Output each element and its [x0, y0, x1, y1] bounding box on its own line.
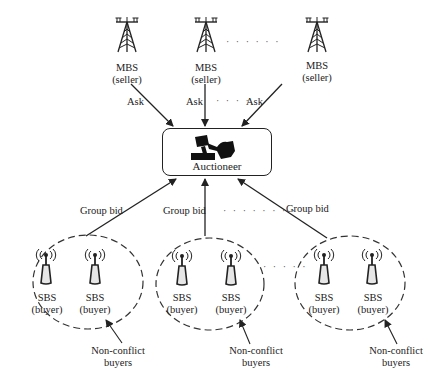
group-bid-label: Group bid — [163, 205, 206, 217]
seller-label: MBS (seller) — [186, 62, 226, 86]
cell-tower-icon — [116, 17, 139, 52]
seller-ellipsis: · · · · · · — [226, 36, 280, 47]
diagram-canvas: MBS (seller) MBS (seller) MBS (seller) ·… — [0, 0, 435, 386]
small-cell-antenna-icon — [314, 249, 333, 284]
small-cell-antenna-icon — [85, 249, 104, 284]
small-cell-antenna-icon — [172, 250, 191, 285]
cell-tower-icon — [195, 17, 218, 52]
seller-label: MBS (seller) — [297, 60, 337, 84]
ask-ellipsis: · · · · — [216, 95, 251, 106]
bid-ellipsis: · · · · · · · · — [223, 205, 297, 216]
buyer-label: SBS (buyer) — [27, 292, 67, 316]
auctioneer-label: Auctioneer — [163, 160, 271, 172]
cell-tower-icon — [306, 17, 329, 52]
seller-label: MBS (seller) — [107, 62, 147, 86]
non-conflict-annotation: Non-conflict buyers — [83, 345, 153, 369]
auctioneer-node: Auctioneer — [162, 128, 272, 176]
buyer-label: SBS (buyer) — [304, 292, 344, 316]
small-cell-antenna-icon — [36, 249, 55, 284]
buyer-label: SBS (buyer) — [211, 292, 251, 316]
group-ellipsis: · · · · · — [263, 261, 308, 272]
ask-label: Ask — [186, 96, 203, 108]
buyer-label: SBS (buyer) — [353, 292, 393, 316]
non-conflict-annotation: Non-conflict buyers — [221, 345, 291, 369]
buyer-label: SBS (buyer) — [162, 292, 202, 316]
small-cell-antenna-icon — [362, 249, 381, 284]
ask-label: Ask — [127, 96, 144, 108]
buyer-group-outline — [156, 238, 264, 330]
non-conflict-annotation: Non-conflict buyers — [361, 345, 431, 369]
buyer-label: SBS (buyer) — [75, 292, 115, 316]
group-bid-label: Group bid — [80, 205, 123, 217]
diagram-lines — [0, 0, 435, 386]
small-cell-antenna-icon — [221, 250, 240, 285]
